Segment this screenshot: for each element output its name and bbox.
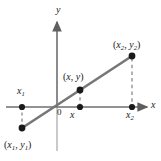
point-x-mid-on-axis <box>77 104 83 110</box>
point-label-x1-y1-y-sub: 1 <box>25 144 28 151</box>
tick-label-x2-sub: 2 <box>130 114 133 121</box>
coordinate-diagram: y x 0 x1 x x2 (x1, y1) (x, y) (x2, y2) <box>0 0 161 161</box>
point-label-x1-y1-x-sub: 1 <box>12 144 15 151</box>
point-label-x1-y1-close: ) <box>28 139 31 150</box>
x-axis-label: x <box>151 100 155 110</box>
tick-label-x1: x1 <box>17 86 25 96</box>
tick-label-x1-sub: 1 <box>21 90 24 97</box>
tick-label-x-mid-var: x <box>70 109 74 120</box>
point-midpoint <box>77 87 84 94</box>
tick-label-x-mid: x <box>70 110 74 120</box>
point-label-x2-y2-x-sub: 2 <box>121 44 124 51</box>
point-label-x2-y2-y: y <box>129 39 133 50</box>
tick-label-x2: x2 <box>126 110 134 120</box>
point-upper-right <box>129 53 136 60</box>
point-label-x2-y2-close: ) <box>137 39 140 50</box>
y-axis-label: y <box>56 5 60 15</box>
point-lower-left <box>19 125 26 132</box>
point-label-x1-y1-y: y <box>20 139 24 150</box>
point-label-x2-y2: (x2, y2) <box>113 40 140 50</box>
point-label-x1-y1: (x1, y1) <box>4 140 31 150</box>
point-x1-on-axis <box>19 104 25 110</box>
point-label-x-y-close: ) <box>80 71 83 82</box>
point-label-x-y: (x, y) <box>63 72 84 82</box>
point-label-x2-y2-y-sub: 2 <box>134 44 137 51</box>
line-segment <box>22 56 132 128</box>
origin-label: 0 <box>57 108 62 117</box>
